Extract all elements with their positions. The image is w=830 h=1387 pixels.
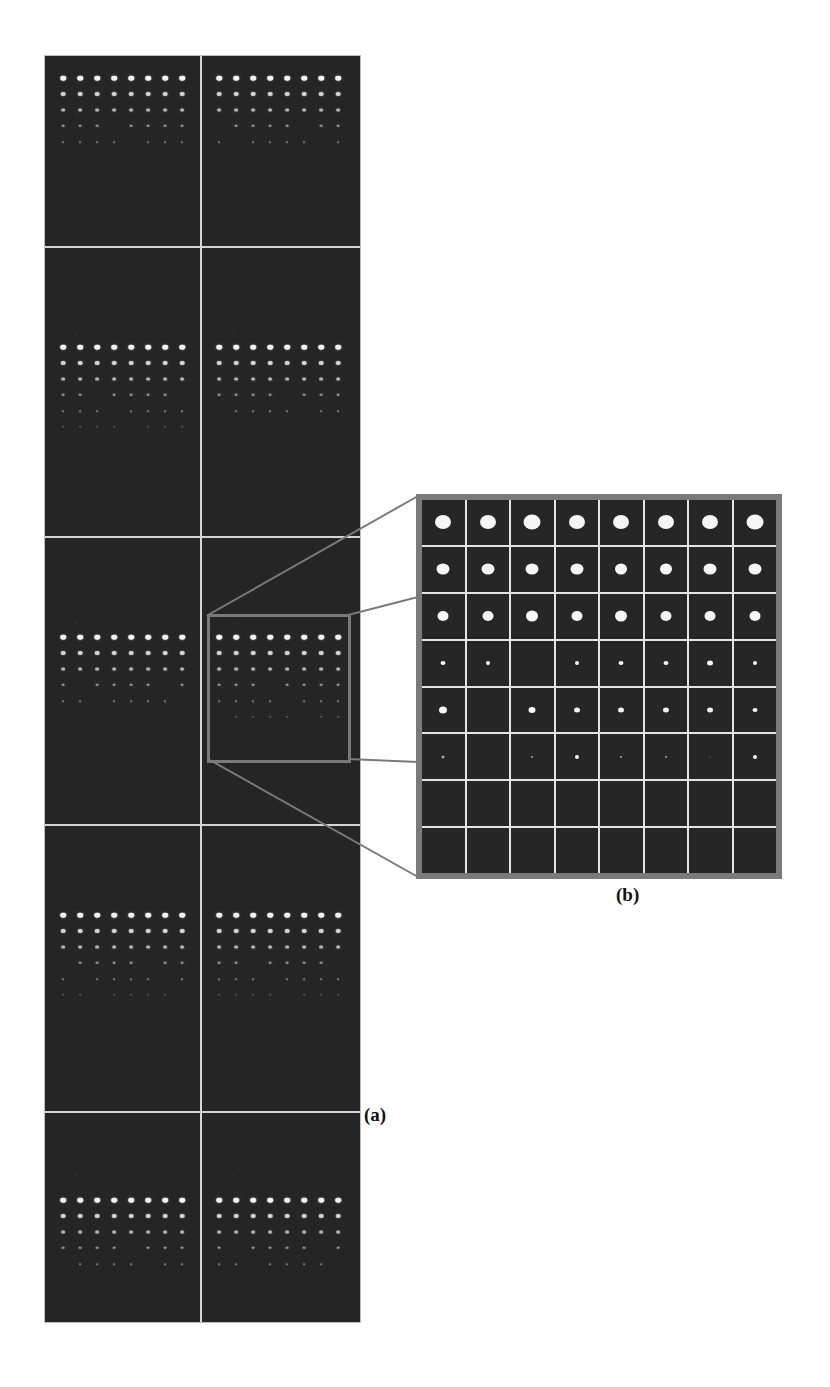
microarray-spot bbox=[129, 377, 133, 380]
microarray-spot bbox=[303, 978, 305, 980]
microarray-spot bbox=[146, 92, 151, 96]
microarray-spot bbox=[218, 1247, 221, 1249]
inset-spot bbox=[575, 661, 579, 665]
microarray-spot bbox=[61, 651, 66, 655]
microarray-spot bbox=[319, 377, 323, 380]
panel-b-zoomed-inset bbox=[416, 494, 782, 879]
microarray-spot bbox=[79, 141, 81, 143]
microarray-spot bbox=[235, 978, 237, 980]
microarray-spot bbox=[252, 125, 255, 127]
microarray-spot bbox=[164, 1263, 166, 1265]
microarray-spot bbox=[164, 141, 166, 143]
microarray-spot bbox=[180, 108, 184, 111]
inset-cell bbox=[645, 828, 688, 873]
microarray-spot bbox=[303, 141, 305, 143]
microarray-spot bbox=[335, 1198, 341, 1203]
inset-cell bbox=[734, 547, 777, 592]
microarray-spot bbox=[130, 978, 132, 980]
microarray-spot bbox=[163, 651, 168, 655]
microarray-spot bbox=[163, 667, 167, 670]
microarray-spot bbox=[128, 345, 134, 350]
microarray-spot bbox=[216, 1198, 222, 1203]
microarray-spot bbox=[113, 700, 115, 702]
microarray-spot bbox=[78, 929, 83, 933]
microarray-spot bbox=[147, 394, 150, 396]
inset-spot bbox=[620, 756, 622, 758]
microarray-spot bbox=[111, 345, 117, 350]
microarray-spot bbox=[164, 125, 167, 127]
microarray-spot bbox=[164, 1247, 167, 1249]
microarray-spot bbox=[111, 913, 117, 918]
microarray-spot bbox=[180, 1214, 185, 1218]
microarray-spot bbox=[180, 377, 184, 380]
inset-cell bbox=[467, 688, 510, 733]
microarray-spot bbox=[268, 377, 272, 380]
microarray-spot bbox=[96, 1263, 98, 1265]
microarray-spot bbox=[180, 929, 185, 933]
microarray-spot bbox=[95, 651, 100, 655]
microarray-spot bbox=[61, 1230, 65, 1233]
microarray-spot bbox=[181, 125, 184, 127]
microarray-spot bbox=[77, 1198, 83, 1203]
montage-cell bbox=[45, 56, 201, 247]
microarray-spot bbox=[180, 945, 184, 948]
inset-cell bbox=[734, 828, 777, 873]
microarray-spot bbox=[320, 962, 323, 964]
microarray-spot bbox=[61, 361, 66, 365]
inset-cell bbox=[556, 547, 599, 592]
inset-cell bbox=[734, 734, 777, 779]
microarray-spot bbox=[113, 962, 116, 964]
microarray-spot bbox=[146, 377, 150, 380]
microarray-spot bbox=[218, 994, 220, 995]
microarray-spot bbox=[302, 108, 306, 111]
inset-cell bbox=[422, 500, 465, 545]
inset-spot bbox=[710, 756, 711, 757]
inset-spot bbox=[526, 611, 538, 622]
microarray-spot bbox=[233, 76, 239, 81]
microarray-spot bbox=[284, 1198, 290, 1203]
microarray-spot bbox=[179, 345, 185, 350]
microarray-spot bbox=[302, 1214, 307, 1218]
microarray-spot bbox=[336, 108, 340, 111]
microarray-spot bbox=[146, 929, 151, 933]
microarray-spot bbox=[181, 141, 183, 143]
microarray-spot bbox=[285, 945, 289, 948]
microarray-spot bbox=[181, 1247, 184, 1249]
microarray-spot bbox=[145, 635, 151, 640]
microarray-spot bbox=[301, 345, 307, 350]
microarray-spot bbox=[94, 635, 100, 640]
inset-spot bbox=[531, 756, 533, 758]
microarray-spot bbox=[301, 1198, 307, 1203]
microarray-spot bbox=[337, 410, 339, 412]
microarray-spot bbox=[112, 929, 117, 933]
inset-spot bbox=[663, 707, 669, 712]
inset-cell bbox=[556, 594, 599, 639]
microarray-spot bbox=[62, 1247, 65, 1249]
montage-horizontal-divider bbox=[45, 246, 360, 248]
microarray-spot bbox=[181, 426, 183, 427]
microarray-spot bbox=[164, 426, 166, 427]
microarray-spot bbox=[96, 410, 98, 412]
microarray-spot bbox=[146, 667, 150, 670]
microarray-spot bbox=[129, 1230, 133, 1233]
microarray-spot bbox=[180, 361, 185, 365]
microarray-spot bbox=[129, 92, 134, 96]
microarray-spot bbox=[163, 1230, 167, 1233]
inset-cell bbox=[600, 734, 643, 779]
microarray-spot bbox=[179, 1198, 185, 1203]
inset-spot bbox=[707, 707, 713, 712]
inset-cell bbox=[556, 734, 599, 779]
microarray-spot bbox=[285, 1214, 290, 1218]
microarray-spot bbox=[302, 377, 306, 380]
microarray-spot bbox=[234, 929, 239, 933]
microarray-spot bbox=[335, 76, 341, 81]
microarray-spot bbox=[95, 667, 99, 670]
microarray-spot bbox=[286, 410, 288, 412]
microarray-spot bbox=[95, 945, 99, 948]
microarray-spot bbox=[130, 125, 133, 127]
microarray-spot bbox=[62, 141, 64, 143]
microarray-spot bbox=[302, 1230, 306, 1233]
inset-cell bbox=[422, 594, 465, 639]
microarray-spot bbox=[60, 913, 66, 918]
microarray-spot bbox=[77, 913, 83, 918]
